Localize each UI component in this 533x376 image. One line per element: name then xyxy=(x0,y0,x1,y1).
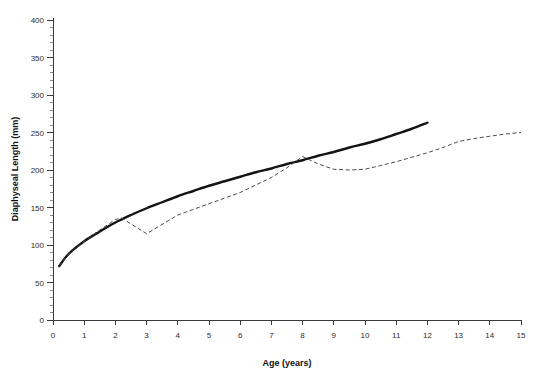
y-axis-title: Diaphyseal Length (mm) xyxy=(10,117,20,222)
x-tick-label: 4 xyxy=(176,331,181,340)
y-tick-label: 300 xyxy=(31,91,45,100)
individual-specimen-curve-line xyxy=(59,133,521,267)
x-tick-label: 13 xyxy=(454,331,463,340)
y-axis-tick-labels: 050100150200250300350400 xyxy=(31,16,45,325)
x-axis-title: Age (years) xyxy=(262,358,311,368)
y-tick-label: 400 xyxy=(31,16,45,25)
x-tick-label: 10 xyxy=(361,331,370,340)
y-tick-label: 50 xyxy=(35,279,44,288)
x-tick-label: 8 xyxy=(300,331,305,340)
x-tick-label: 15 xyxy=(517,331,526,340)
x-axis-major-ticks xyxy=(53,320,521,325)
x-tick-label: 11 xyxy=(392,331,401,340)
reference-growth-curve-line xyxy=(59,123,427,266)
x-axis-tick-labels: 0123456789101112131415 xyxy=(51,331,526,340)
y-tick-label: 250 xyxy=(31,129,45,138)
x-tick-label: 1 xyxy=(82,331,87,340)
diaphyseal-length-vs-age-chart: 050100150200250300350400 012345678910111… xyxy=(0,0,533,376)
x-tick-label: 2 xyxy=(113,331,118,340)
y-tick-label: 0 xyxy=(40,316,45,325)
x-tick-label: 5 xyxy=(207,331,212,340)
y-tick-label: 350 xyxy=(31,54,45,63)
x-tick-label: 3 xyxy=(144,331,149,340)
x-tick-label: 14 xyxy=(485,331,494,340)
x-tick-label: 6 xyxy=(238,331,243,340)
x-tick-label: 7 xyxy=(269,331,274,340)
x-tick-label: 0 xyxy=(51,331,56,340)
chart-container: 050100150200250300350400 012345678910111… xyxy=(0,0,533,376)
y-tick-label: 200 xyxy=(31,166,45,175)
x-tick-label: 9 xyxy=(332,331,337,340)
y-tick-label: 150 xyxy=(31,204,45,213)
x-tick-label: 12 xyxy=(423,331,432,340)
y-tick-label: 100 xyxy=(31,241,45,250)
